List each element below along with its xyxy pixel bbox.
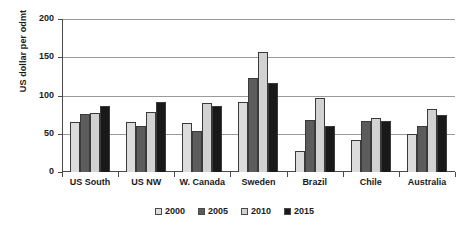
bar: [136, 126, 146, 172]
bar: [80, 114, 90, 172]
bar: [212, 106, 222, 172]
y-axis-tick-label: 50: [20, 128, 54, 138]
bar: [417, 126, 427, 172]
x-axis-label: Brazil: [287, 177, 343, 187]
bar: [238, 102, 248, 172]
bar: [295, 151, 305, 172]
x-axis-label: Chile: [343, 177, 399, 187]
legend-item[interactable]: 2000: [155, 206, 185, 216]
bar: [315, 98, 325, 172]
bar: [427, 109, 437, 172]
chart-legend: 2000200520102015: [0, 206, 469, 216]
legend-swatch-icon: [198, 208, 205, 215]
bar: [258, 52, 268, 172]
x-axis-label: W. Canada: [174, 177, 230, 187]
x-axis-label: Australia: [399, 177, 455, 187]
bar: [202, 103, 212, 172]
bar: [90, 113, 100, 172]
bar-group: [399, 19, 455, 172]
y-axis-tick-label: 150: [20, 51, 54, 61]
bar: [371, 118, 381, 172]
bar: [305, 120, 315, 172]
bar: [248, 78, 258, 172]
bar: [146, 112, 156, 172]
legend-label: 2010: [251, 206, 271, 216]
bar-chart: US dollar per odmt 200150100500 US South…: [0, 0, 469, 233]
legend-label: 2015: [294, 206, 314, 216]
legend-swatch-icon: [241, 208, 248, 215]
bar: [100, 106, 110, 172]
bar: [70, 122, 80, 172]
legend-swatch-icon: [155, 208, 162, 215]
y-axis-tick-label: 0: [20, 166, 54, 176]
legend-swatch-icon: [284, 208, 291, 215]
bar-group: [230, 19, 286, 172]
y-axis-tick-label: 100: [20, 90, 54, 100]
bar: [156, 102, 166, 172]
bar: [325, 126, 335, 172]
y-axis-tick-label: 200: [20, 13, 54, 23]
bar: [437, 115, 447, 172]
bar-group: [343, 19, 399, 172]
legend-item[interactable]: 2005: [198, 206, 228, 216]
bar: [381, 121, 391, 172]
bar-group: [174, 19, 230, 172]
bar: [192, 131, 202, 172]
bar: [182, 123, 192, 172]
legend-label: 2005: [208, 206, 228, 216]
x-axis-label: US NW: [118, 177, 174, 187]
bar: [268, 83, 278, 172]
bar-group: [62, 19, 118, 172]
bar-group: [118, 19, 174, 172]
legend-item[interactable]: 2015: [284, 206, 314, 216]
legend-label: 2000: [165, 206, 185, 216]
bar: [361, 121, 371, 172]
x-axis-labels: US SouthUS NWW. CanadaSwedenBrazilChileA…: [62, 177, 455, 187]
bar-group: [287, 19, 343, 172]
bar: [126, 122, 136, 172]
bar: [351, 140, 361, 172]
legend-item[interactable]: 2010: [241, 206, 271, 216]
bar-groups: [62, 19, 455, 172]
x-axis-label: US South: [62, 177, 118, 187]
bar: [407, 134, 417, 172]
x-axis-label: Sweden: [230, 177, 286, 187]
x-axis-tick-mark: [455, 172, 456, 177]
